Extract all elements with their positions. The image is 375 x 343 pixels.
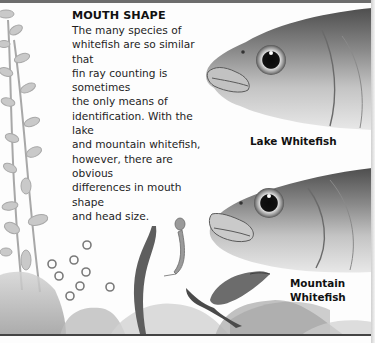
mountain-whitefish-head xyxy=(209,168,372,273)
caption-line: Mountain xyxy=(290,277,345,289)
top-rule xyxy=(0,0,375,3)
section-heading: MOUTH SHAPE xyxy=(72,9,212,23)
water-plant xyxy=(0,10,49,292)
page-edge xyxy=(371,0,375,343)
body-line: fin ray counting is sometimes xyxy=(72,67,167,93)
section-body: The many species of whitefish are so sim… xyxy=(72,23,212,223)
body-line: the only means of xyxy=(72,95,168,107)
mouth-shape-section: MOUTH SHAPE The many species of whitefis… xyxy=(72,9,212,223)
mosquito-larva xyxy=(164,218,185,276)
mountain-whitefish-caption: Mountain Whitefish xyxy=(290,276,346,304)
body-line: identification. With the lake xyxy=(72,110,193,136)
book-page: MOUTH SHAPE The many species of whitefis… xyxy=(0,0,375,343)
body-line: The many species of xyxy=(72,24,181,36)
bottom-rule xyxy=(0,334,372,336)
caption-line: Whitefish xyxy=(290,291,346,303)
body-line: however, there are obvious xyxy=(72,153,173,179)
lake-whitefish-head xyxy=(206,8,372,130)
eggs xyxy=(48,241,114,300)
body-line: and mountain whitefish, xyxy=(72,138,200,150)
body-line: and head size. xyxy=(72,210,149,222)
lake-whitefish-caption: Lake Whitefish xyxy=(250,134,337,148)
body-line: differences in mouth shape xyxy=(72,181,181,207)
body-line: whitefish are so similar that xyxy=(72,38,195,64)
